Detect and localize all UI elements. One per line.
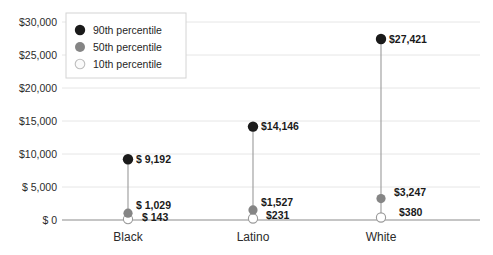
point-latino-90th: [248, 121, 258, 131]
x-tick-latino: Latino: [237, 230, 270, 244]
point-latino-50th: [248, 205, 257, 214]
legend-swatch-90th-icon: [75, 25, 85, 35]
legend-label-10th: 10th percentile: [93, 58, 162, 70]
label-latino-50th: $1,527: [261, 196, 293, 208]
y-tick-25000: $25,000: [19, 49, 57, 61]
point-white-50th: [376, 194, 385, 203]
legend-label-90th: 90th percentile: [93, 24, 162, 36]
label-white-10th: $380: [399, 206, 423, 218]
y-tick-30000: $30,000: [19, 16, 57, 28]
column-black: $ 9,192 $ 1,029 $ 143 Black: [113, 153, 171, 244]
y-tick-0: $ 0: [42, 214, 57, 226]
percentile-dot-chart: $30,000 $25,000 $20,000 $15,000 $10,000 …: [0, 0, 493, 255]
label-latino-10th: $231: [266, 209, 290, 221]
legend: 90th percentile 50th percentile 10th per…: [66, 13, 186, 78]
legend-label-50th: 50th percentile: [93, 41, 162, 53]
y-tick-20000: $20,000: [19, 82, 57, 94]
point-black-50th: [123, 209, 132, 218]
point-latino-10th: [248, 214, 257, 223]
point-black-90th: [123, 154, 133, 164]
label-white-90th: $27,421: [389, 33, 427, 45]
point-white-10th: [376, 213, 385, 222]
y-tick-5000: $ 5,000: [22, 181, 57, 193]
label-black-10th: $ 143: [142, 211, 168, 223]
label-white-50th: $3,247: [394, 186, 426, 198]
y-axis-tick-labels: $30,000 $25,000 $20,000 $15,000 $10,000 …: [19, 16, 57, 226]
y-tick-10000: $10,000: [19, 148, 57, 160]
x-tick-white: White: [366, 230, 397, 244]
point-white-90th: [376, 34, 386, 44]
column-latino: $14,146 $1,527 $231 Latino: [237, 120, 299, 244]
legend-swatch-50th-icon: [75, 42, 85, 52]
label-black-50th: $ 1,029: [136, 199, 171, 211]
label-black-90th: $ 9,192: [136, 153, 171, 165]
x-tick-black: Black: [113, 230, 143, 244]
label-latino-90th: $14,146: [261, 120, 299, 132]
column-white: $27,421 $3,247 $380 White: [366, 33, 427, 244]
legend-swatch-10th-icon: [75, 59, 85, 69]
y-tick-15000: $15,000: [19, 115, 57, 127]
